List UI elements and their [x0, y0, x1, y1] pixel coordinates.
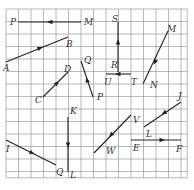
- point-label: W: [106, 146, 116, 156]
- point-label: P: [96, 92, 104, 102]
- vector-pq: QP: [81, 55, 104, 102]
- arrowhead-icon: [116, 39, 120, 45]
- point-label: E: [132, 143, 140, 153]
- point-label: N: [149, 80, 159, 90]
- arrowhead-icon: [37, 45, 44, 51]
- point-label: L: [69, 170, 76, 180]
- vector-cd: CD: [35, 64, 71, 105]
- point-label: U: [104, 77, 112, 87]
- vector-tu: UT: [104, 72, 138, 87]
- arrowhead-icon: [29, 150, 36, 156]
- arrowhead-icon: [66, 143, 70, 149]
- point-label: J: [176, 91, 183, 101]
- point-label: B: [65, 39, 73, 49]
- point-label: V: [133, 115, 141, 125]
- vector-line: [6, 37, 68, 62]
- point-label: S: [112, 14, 118, 24]
- vector-line: [143, 31, 168, 84]
- arrowhead-icon: [47, 20, 53, 24]
- point-label: M: [166, 24, 177, 34]
- point-label: Q: [84, 55, 92, 65]
- vector-grid-diagram: PMABCDQPSRUTMNKLIQVWJLEF: [0, 0, 194, 190]
- diagram-canvas: PMABCDQPSRUTMNKLIQVWJLEF: [0, 0, 194, 190]
- vector-kl: KL: [66, 106, 78, 180]
- point-label: M: [83, 17, 94, 27]
- point-label: K: [69, 106, 78, 116]
- point-label: T: [131, 77, 138, 87]
- vector-jl: JL: [144, 91, 183, 139]
- point-label: I: [5, 144, 10, 154]
- point-label: Q: [56, 167, 64, 177]
- point-label: A: [2, 63, 10, 73]
- vector-line: [144, 102, 181, 127]
- point-label: D: [63, 64, 71, 74]
- point-label: L: [145, 129, 152, 139]
- vector-ab: AB: [2, 37, 73, 73]
- vector-ef: EF: [131, 138, 183, 154]
- point-label: C: [35, 95, 42, 105]
- point-label: R: [110, 60, 118, 70]
- point-label: F: [175, 144, 183, 154]
- arrowhead-icon: [160, 138, 166, 142]
- point-label: P: [9, 17, 17, 27]
- arrowhead-icon: [115, 72, 121, 76]
